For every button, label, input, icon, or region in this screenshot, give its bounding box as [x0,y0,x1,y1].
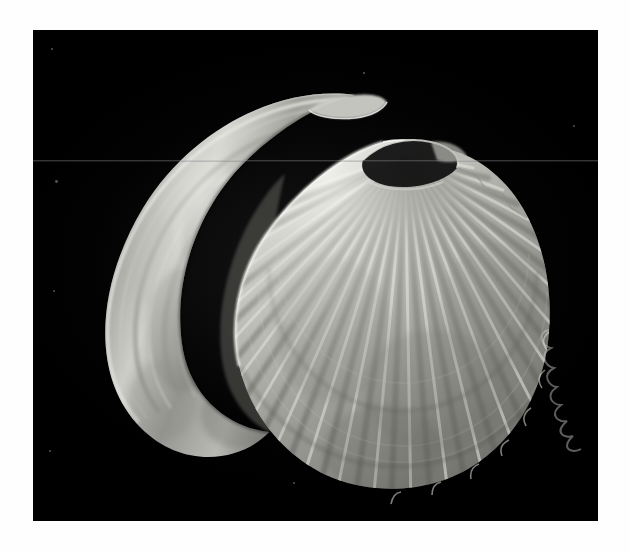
dust-speck [293,482,295,484]
x-ray-plate [33,30,598,521]
dust-speck [573,125,575,127]
crescent-shell [33,30,598,521]
dust-speck [49,450,51,452]
page-canvas [0,0,629,552]
dust-speck [363,72,365,74]
dust-speck [55,180,58,183]
plate-inner [33,30,598,521]
horizontal-scan-line-shadow [33,161,598,162]
